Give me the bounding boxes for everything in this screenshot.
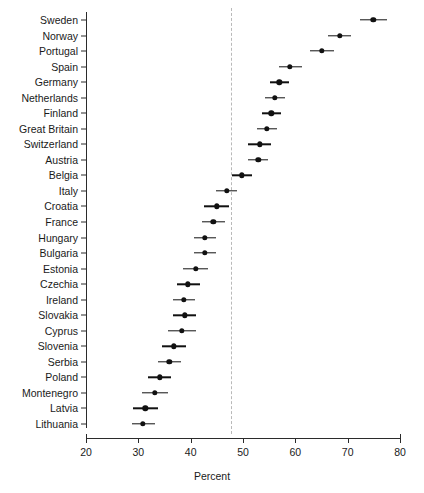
data-point-dot: [224, 188, 229, 193]
row-label-spain: Spain: [51, 61, 78, 73]
row-label-austria: Austria: [45, 154, 78, 166]
row-label-ireland: Ireland: [46, 294, 78, 306]
row-label-serbia: Serbia: [48, 356, 78, 368]
data-point-dot: [152, 390, 157, 395]
data-point-dot: [287, 64, 292, 69]
row-label-poland: Poland: [45, 371, 78, 383]
row-label-belgia: Belgia: [49, 169, 78, 181]
row-label-great-britain: Great Britain: [19, 123, 78, 135]
row-label-czechia: Czechia: [40, 278, 78, 290]
x-tick-70: [348, 438, 349, 443]
row-label-slovakia: Slovakia: [38, 309, 78, 321]
x-tick-label-60: 60: [289, 446, 301, 458]
x-tick-20: [86, 438, 87, 443]
row-label-portugal: Portugal: [39, 45, 78, 57]
data-point-dot: [239, 173, 244, 178]
x-tick-label-40: 40: [185, 446, 197, 458]
reference-line: [231, 8, 233, 434]
data-point-dot: [202, 235, 207, 240]
data-point-dot: [255, 157, 260, 162]
data-point-dot: [167, 359, 172, 364]
row-label-hungary: Hungary: [38, 232, 78, 244]
x-tick-80: [400, 438, 401, 443]
data-point-dot: [272, 95, 277, 100]
data-point-dot: [319, 48, 324, 53]
row-label-montenegro: Montenegro: [22, 387, 78, 399]
row-label-croatia: Croatia: [44, 200, 78, 212]
row-label-france: France: [45, 216, 78, 228]
row-label-finland: Finland: [44, 107, 78, 119]
data-point-dot: [181, 297, 186, 302]
row-label-lithuania: Lithuania: [35, 418, 78, 430]
data-point-dot: [214, 204, 219, 209]
row-label-bulgaria: Bulgaria: [39, 247, 78, 259]
row-label-norway: Norway: [42, 30, 78, 42]
data-point-dot: [269, 111, 274, 116]
x-tick-label-20: 20: [80, 446, 92, 458]
row-label-sweden: Sweden: [40, 14, 78, 26]
data-point-dot: [185, 281, 190, 286]
x-tick-label-80: 80: [394, 446, 406, 458]
row-label-italy: Italy: [59, 185, 78, 197]
data-point-dot: [182, 313, 187, 318]
data-point-dot: [171, 344, 176, 349]
data-point-dot: [337, 33, 342, 38]
x-tick-label-30: 30: [132, 446, 144, 458]
row-label-switzerland: Switzerland: [24, 138, 78, 150]
data-point-dot: [140, 421, 145, 426]
x-tick-label-50: 50: [237, 446, 249, 458]
data-point-dot: [276, 79, 281, 84]
data-point-dot: [257, 142, 262, 147]
data-point-dot: [264, 126, 269, 131]
y-axis-spine: [86, 12, 87, 428]
row-label-germany: Germany: [35, 76, 78, 88]
x-tick-label-70: 70: [342, 446, 354, 458]
data-point-dot: [157, 375, 162, 380]
dot-plot-chart: SwedenNorwayPortugalSpainGermanyNetherla…: [0, 0, 424, 493]
data-point-dot: [371, 17, 376, 22]
row-label-slovenia: Slovenia: [38, 340, 78, 352]
x-axis-title: Percent: [0, 470, 424, 482]
x-tick-30: [138, 438, 139, 443]
row-label-netherlands: Netherlands: [21, 92, 78, 104]
row-label-latvia: Latvia: [50, 402, 78, 414]
data-point-dot: [142, 406, 147, 411]
data-point-dot: [202, 250, 207, 255]
x-tick-60: [295, 438, 296, 443]
data-point-dot: [193, 266, 198, 271]
row-label-estonia: Estonia: [43, 263, 78, 275]
data-point-dot: [179, 328, 184, 333]
data-point-dot: [210, 219, 215, 224]
row-label-cyprus: Cyprus: [45, 325, 78, 337]
x-tick-40: [191, 438, 192, 443]
x-tick-50: [243, 438, 244, 443]
